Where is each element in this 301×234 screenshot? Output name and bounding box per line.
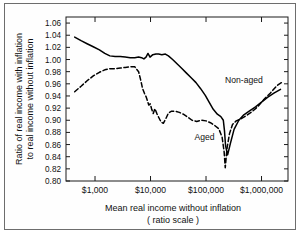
series-line-non-aged — [75, 37, 281, 155]
y-tick-label: 0.96 — [45, 80, 61, 89]
x-tick-label: $10,000 — [135, 185, 166, 195]
y-tick-label: 0.88 — [45, 128, 61, 137]
y-axis-title-line1: Ratio of real income with inflation — [14, 33, 24, 165]
y-tick-label: 0.90 — [45, 116, 61, 125]
y-tick-label: 0.92 — [45, 104, 61, 113]
series-label-aged: Aged — [194, 132, 214, 142]
y-tick-label: 1.00 — [45, 56, 61, 65]
y-tick-label: 0.84 — [45, 153, 61, 162]
y-axis-title-line2: to real income without inflation — [25, 38, 35, 159]
y-tick-label: 0.80 — [45, 177, 61, 186]
y-tick-label: 1.02 — [45, 43, 61, 52]
chart-page: 0.800.820.840.860.880.900.920.940.960.98… — [0, 0, 301, 234]
y-tick-label: 0.94 — [45, 92, 61, 101]
x-tick-label: $1,000,000 — [240, 185, 283, 195]
y-tick-label: 1.06 — [45, 19, 61, 28]
y-tick-label: 0.86 — [45, 141, 61, 150]
x-tick-label: $1,000 — [82, 185, 109, 195]
y-tick-label: 0.98 — [45, 68, 61, 77]
y-tick-label: 1.04 — [45, 31, 61, 40]
x-axis-title: Mean real income without inflation — [105, 203, 241, 213]
line-chart: 0.800.820.840.860.880.900.920.940.960.98… — [0, 0, 301, 234]
plot-frame — [66, 17, 288, 181]
x-tick-label: $100,000 — [188, 185, 224, 195]
series-label-non-aged: Non-aged — [225, 75, 263, 85]
x-axis-subtitle: ( ratio scale ) — [147, 215, 199, 225]
y-tick-label: 0.82 — [45, 165, 61, 174]
